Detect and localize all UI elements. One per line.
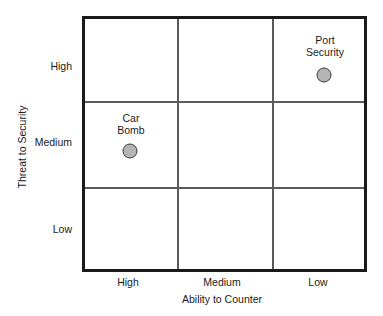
datapoint-port-security[interactable] [317, 68, 332, 83]
gridline-vertical-2 [272, 19, 274, 269]
datapoint-label-line-2: Bomb [117, 125, 144, 137]
plot-area: Port Security Car Bomb [82, 16, 367, 272]
gridline-vertical-1 [177, 19, 179, 269]
y-tick-low: Low [53, 223, 72, 235]
threat-matrix-chart: Threat to Security High Medium Low Port … [0, 0, 383, 316]
datapoint-label-line-2: Security [306, 47, 344, 59]
datapoint-label-line-1: Car [117, 113, 144, 125]
y-axis-title: Threat to Security [16, 106, 28, 189]
x-tick-low: Low [308, 276, 327, 288]
datapoint-label-port-security: Port Security [306, 35, 344, 58]
y-tick-medium: Medium [35, 136, 72, 148]
datapoint-label-line-1: Port [306, 35, 344, 47]
gridline-horizontal-1 [85, 101, 364, 103]
x-tick-high: High [117, 276, 139, 288]
x-axis-title: Ability to Counter [182, 293, 262, 305]
datapoint-label-car-bomb: Car Bomb [117, 113, 144, 136]
x-tick-medium: Medium [203, 276, 240, 288]
y-tick-high: High [50, 60, 72, 72]
datapoint-car-bomb[interactable] [123, 144, 138, 159]
gridline-horizontal-2 [85, 187, 364, 189]
